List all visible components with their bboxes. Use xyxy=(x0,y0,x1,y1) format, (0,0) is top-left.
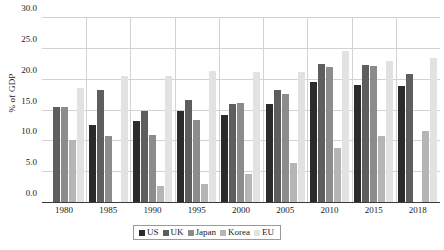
x-axis-labels: 198019851990199520002005201020152018 xyxy=(42,205,440,215)
bar-group-1985 xyxy=(86,18,130,203)
legend-swatch-icon xyxy=(188,230,194,236)
bar-uk-2015 xyxy=(362,65,369,203)
x-axis-tick-label: 1990 xyxy=(130,205,174,215)
y-axis-tick-label: 30.0 xyxy=(21,3,37,13)
x-axis-tick-label: 2005 xyxy=(263,205,307,215)
bar-group-2015 xyxy=(352,18,396,203)
bar-group-1980 xyxy=(42,18,86,203)
bar-group-2000 xyxy=(219,18,263,203)
bar-uk-1990 xyxy=(141,111,148,204)
bar-group-2018 xyxy=(396,18,440,203)
bar-korea-2005 xyxy=(290,163,297,203)
y-axis-tick-label: 25.0 xyxy=(21,34,37,44)
x-axis-tick-label: 1980 xyxy=(42,205,86,215)
plot-area: 0.05.010.015.020.025.030.0 xyxy=(42,18,440,203)
bar-uk-1995 xyxy=(185,100,192,203)
bar-group-2005 xyxy=(263,18,307,203)
bar-us-2005 xyxy=(266,104,273,203)
bar-korea-1980 xyxy=(69,140,76,203)
bar-groups xyxy=(42,18,440,203)
bar-eu-2000 xyxy=(253,72,260,203)
bar-korea-1990 xyxy=(157,186,164,203)
bar-uk-2010 xyxy=(318,64,325,203)
legend-item-eu[interactable]: EU xyxy=(254,228,274,237)
bar-korea-2000 xyxy=(245,174,252,203)
x-axis-tick-label: 2015 xyxy=(352,205,396,215)
chart-legend: USUKJapanKoreaEU xyxy=(133,225,281,240)
bar-uk-2000 xyxy=(229,104,236,203)
bar-japan-1985 xyxy=(105,136,112,203)
bar-japan-2010 xyxy=(326,67,333,203)
bar-chart: % of GDP 0.05.010.015.020.025.030.0 1980… xyxy=(0,0,444,250)
bar-us-2000 xyxy=(221,115,228,203)
bar-group-1990 xyxy=(130,18,174,203)
y-axis-tick-label: 15.0 xyxy=(21,96,37,106)
bar-korea-2015 xyxy=(378,136,385,203)
legend-label: Japan xyxy=(196,228,217,237)
bar-group-2010 xyxy=(307,18,351,203)
x-axis-tick-label: 1995 xyxy=(175,205,219,215)
legend-label: US xyxy=(147,228,159,237)
bar-us-2018 xyxy=(398,86,405,203)
legend-item-japan[interactable]: Japan xyxy=(188,228,217,237)
bar-eu-1980 xyxy=(77,88,84,203)
bar-us-1990 xyxy=(133,121,140,203)
bar-eu-1985 xyxy=(121,76,128,203)
x-axis-tick-label: 1985 xyxy=(86,205,130,215)
bar-japan-1995 xyxy=(193,120,200,203)
legend-swatch-icon xyxy=(163,230,169,236)
bar-us-1985 xyxy=(89,125,96,203)
bar-japan-2000 xyxy=(237,103,244,203)
legend-item-korea[interactable]: Korea xyxy=(220,228,250,237)
bar-eu-2005 xyxy=(298,72,305,203)
x-axis-tick-label: 2000 xyxy=(219,205,263,215)
bar-eu-2015 xyxy=(386,61,393,203)
bar-uk-1980 xyxy=(53,107,60,203)
bar-korea-2010 xyxy=(334,148,341,204)
x-axis-tick-label: 2018 xyxy=(396,205,440,215)
legend-item-uk[interactable]: UK xyxy=(163,228,184,237)
bar-eu-1995 xyxy=(209,71,216,203)
y-axis-tick-label: 0.0 xyxy=(26,188,37,198)
bar-korea-2018 xyxy=(422,131,429,203)
x-axis-line xyxy=(42,202,440,203)
legend-swatch-icon xyxy=(254,230,260,236)
legend-item-us[interactable]: US xyxy=(139,228,159,237)
bar-japan-2015 xyxy=(370,66,377,203)
legend-swatch-icon xyxy=(139,230,145,236)
bar-uk-1985 xyxy=(97,90,104,203)
bar-uk-2005 xyxy=(274,90,281,203)
bar-us-2010 xyxy=(310,82,317,203)
y-axis-tick-label: 10.0 xyxy=(21,126,37,136)
bar-group-1995 xyxy=(175,18,219,203)
legend-label: UK xyxy=(171,228,184,237)
legend-swatch-icon xyxy=(220,230,226,236)
y-axis-tick-label: 5.0 xyxy=(26,157,37,167)
plot-inner: 0.05.010.015.020.025.030.0 xyxy=(42,18,440,203)
y-axis-tick-label: 20.0 xyxy=(21,65,37,75)
bar-japan-1980 xyxy=(61,107,68,203)
bar-japan-1990 xyxy=(149,135,156,203)
bar-korea-1995 xyxy=(201,184,208,203)
legend-label: Korea xyxy=(228,228,250,237)
x-axis-tick-label: 2010 xyxy=(307,205,351,215)
legend-label: EU xyxy=(262,228,274,237)
bar-eu-2018 xyxy=(430,58,437,203)
bar-japan-2005 xyxy=(282,94,289,203)
bar-eu-1990 xyxy=(165,76,172,203)
y-axis-title: % of GDP xyxy=(7,55,17,131)
bar-us-1995 xyxy=(177,111,184,203)
bar-us-2015 xyxy=(354,85,361,203)
bar-eu-2010 xyxy=(342,51,349,203)
bar-uk-2018 xyxy=(406,74,413,203)
